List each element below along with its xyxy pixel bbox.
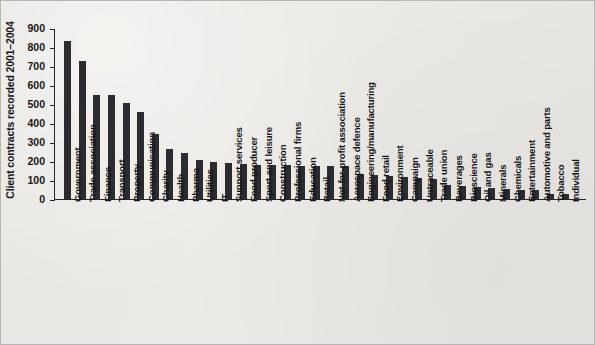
y-axis-tick-label: 900 bbox=[27, 22, 45, 34]
y-axis-tick: 0 bbox=[50, 200, 55, 201]
figure-panel: Client contracts recorded 2001–2004 0100… bbox=[0, 0, 595, 345]
x-axis-tick-label: Health bbox=[174, 174, 187, 202]
x-axis-tick-label: Property bbox=[130, 164, 143, 202]
x-axis-tick-label: Individual bbox=[569, 159, 582, 202]
x-axis-tick-label: Tobacco bbox=[554, 165, 567, 202]
x-axis-tick-label: Communication bbox=[145, 132, 158, 202]
x-axis-labels: GovernmentTrade associationFinanceTransp… bbox=[54, 202, 586, 342]
x-axis-tick-label: Engineering/manufacturing bbox=[364, 82, 377, 202]
x-axis-tick-label: Education bbox=[306, 157, 319, 202]
x-axis-tick-label: Environment bbox=[393, 146, 406, 202]
x-axis-tick-label: Retail bbox=[320, 177, 333, 202]
x-axis-tick-label: Campaign bbox=[408, 157, 421, 202]
x-axis-tick-label: Transport bbox=[115, 160, 128, 202]
x-axis-tick-label: Finance bbox=[101, 167, 114, 202]
y-axis-tick-label: 300 bbox=[27, 136, 45, 148]
x-axis-tick-label: Trade union bbox=[437, 150, 450, 202]
x-axis-tick-label: Minerals bbox=[496, 165, 509, 202]
y-axis-tick-label: 100 bbox=[27, 174, 45, 186]
x-axis-tick-label: Trade association bbox=[86, 124, 99, 202]
x-axis-tick-label: Utilities bbox=[203, 169, 216, 202]
y-axis-title: Client contracts recorded 2001–2004 bbox=[3, 19, 17, 201]
x-axis-tick-label: Charity bbox=[159, 170, 172, 202]
x-axis-tick-label: Food producer bbox=[247, 137, 260, 202]
x-axis-tick-label: Pharma bbox=[189, 168, 202, 202]
y-axis-tick-label: 200 bbox=[27, 155, 45, 167]
y-axis-tick-label: 0 bbox=[39, 193, 45, 205]
bar[interactable] bbox=[64, 41, 71, 199]
x-axis-tick-label: Support services bbox=[232, 127, 245, 202]
y-axis-tick-label: 600 bbox=[27, 79, 45, 91]
x-axis-tick-label: Not-for-profit association bbox=[335, 92, 348, 202]
x-axis-tick-label: Chemicals bbox=[511, 156, 524, 202]
x-axis-tick-label: Oil and gas bbox=[481, 152, 494, 202]
y-axis-tick-label: 400 bbox=[27, 117, 45, 129]
x-axis-tick-label: Professional firms bbox=[291, 122, 304, 202]
x-axis-tick-label: Aerospace defence bbox=[350, 117, 363, 202]
x-axis-tick-label: Beverages bbox=[452, 155, 465, 202]
x-axis-tick-label: Construction bbox=[276, 145, 289, 202]
x-axis-tick-label: Sport and leisure bbox=[262, 127, 275, 202]
x-axis-tick-label: Bioscience bbox=[467, 153, 480, 202]
y-axis-tick-label: 500 bbox=[27, 98, 45, 110]
x-axis-tick-label: IT bbox=[218, 194, 231, 202]
x-axis-tick-label: Government bbox=[71, 147, 84, 202]
y-axis-tick-label: 700 bbox=[27, 60, 45, 72]
x-axis-tick-label: Food retail bbox=[379, 155, 392, 202]
x-axis-tick-label: Entertainment bbox=[525, 140, 538, 202]
y-axis-tick-label: 800 bbox=[27, 41, 45, 53]
x-axis-tick-label: Untraceable bbox=[423, 149, 436, 202]
x-axis-tick-label: Automotive and parts bbox=[540, 107, 553, 202]
